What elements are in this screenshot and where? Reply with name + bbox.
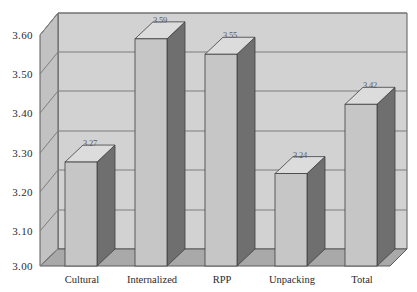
category-label-total: Total	[351, 274, 373, 285]
bar-chart: 3.60 3.50 3.40 3.30 3.20 3.10 3.00 3.273…	[0, 0, 417, 292]
y-tick-label-320: 3.20	[12, 186, 33, 198]
bar-value-label: 3.42	[363, 80, 377, 90]
category-label-unpacking: Unpacking	[269, 274, 316, 285]
bar-front-face	[345, 104, 377, 266]
bar-cultural: 3.27	[65, 138, 115, 266]
category-axis-labels: CulturalInternalizedRPPUnpackingTotal	[65, 274, 373, 285]
bar-front-face	[135, 39, 167, 266]
bar-side-face	[237, 37, 255, 266]
category-label-internalized: Internalized	[127, 274, 178, 285]
y-axis-labels: 3.60 3.50 3.40 3.30 3.20 3.10 3.00	[12, 29, 33, 272]
y-tick-label-300: 3.00	[12, 260, 33, 272]
bar-front-face	[275, 174, 307, 266]
category-label-rpp: RPP	[213, 274, 232, 285]
bar-side-face	[97, 145, 115, 266]
bar-unpacking: 3.24	[275, 150, 325, 266]
bar-front-face	[65, 162, 97, 266]
chart-canvas: 3.60 3.50 3.40 3.30 3.20 3.10 3.00 3.273…	[0, 0, 417, 292]
y-tick-label-310: 3.10	[12, 225, 33, 237]
bar-value-label: 3.24	[293, 150, 308, 160]
bar-side-face	[167, 22, 185, 266]
bar-side-face	[377, 87, 395, 266]
bar-value-label: 3.55	[223, 30, 237, 40]
bar-value-label: 3.27	[83, 138, 97, 148]
y-tick-label-350: 3.50	[12, 68, 33, 80]
bar-front-face	[205, 54, 237, 266]
y-tick-label-360: 3.60	[12, 29, 33, 41]
bar-rpp: 3.55	[205, 30, 255, 266]
y-tick-label-330: 3.30	[12, 147, 33, 159]
bar-internalized: 3.59	[135, 15, 185, 266]
bar-side-face	[307, 157, 325, 266]
bar-total: 3.42	[345, 80, 395, 266]
y-tick-label-340: 3.40	[12, 107, 33, 119]
bar-value-label: 3.59	[153, 15, 167, 25]
category-label-cultural: Cultural	[65, 274, 99, 285]
